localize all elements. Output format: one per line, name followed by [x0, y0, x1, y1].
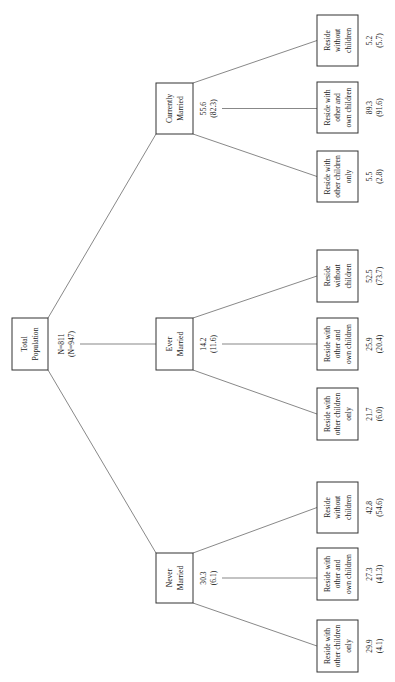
never-married-node-stats: 30.3 — [199, 571, 208, 584]
edge-currently-married-other-only — [193, 134, 317, 177]
root-node-stats: N=811 — [57, 333, 66, 354]
currently-married-node-stats: 55.6 — [199, 102, 208, 115]
ever-married-leaf-0-label: Reside with — [323, 396, 332, 432]
currently-married-leaf-0-label: other children — [333, 155, 342, 198]
edge-currently-married-without-children — [193, 41, 317, 84]
root-node-label: Population — [31, 327, 40, 360]
never-married-node-box — [156, 553, 193, 603]
ever-married-node-stats: (11.6) — [209, 335, 218, 354]
never-married-leaf-0-stats: 29.9 — [365, 639, 374, 652]
currently-married-leaf-0-label: only — [344, 170, 353, 184]
edge-never-married-other-only — [193, 603, 317, 646]
currently-married-leaf-2-stats: (5.7) — [375, 33, 384, 48]
currently-married-leaf-1-label: Reside with — [323, 89, 332, 125]
ever-married-leaf-1-label: own children — [344, 324, 353, 364]
ever-married-leaf-0-stats: (6.0) — [375, 406, 384, 421]
ever-married-leaf-2-stats: (73.7) — [375, 266, 384, 285]
ever-married-node-box — [156, 318, 193, 370]
ever-married-leaf-0-stats: 21.7 — [365, 407, 374, 420]
never-married-leaf-0-label: Reside with — [323, 628, 332, 664]
never-married-node-label: Married — [176, 566, 185, 591]
ever-married-node-label: Married — [176, 332, 185, 357]
never-married-leaf-1-stats: (41.3) — [375, 564, 384, 583]
never-married-leaf-1-stats: 27.3 — [365, 567, 374, 580]
tree-diagram: TotalPopulationN=811(N=947)CurrentlyMarr… — [0, 0, 395, 682]
never-married-node-label: Never — [165, 568, 174, 587]
ever-married-leaf-2-label: Reside — [323, 265, 332, 286]
currently-married-leaf-0-stats: 5.5 — [365, 172, 374, 182]
never-married-leaf-0-stats: (4.1) — [375, 638, 384, 653]
never-married-leaf-2-label: Reside — [323, 497, 332, 518]
never-married-leaf-2-label: without — [333, 495, 342, 519]
ever-married-leaf-0-label: only — [344, 407, 353, 421]
ever-married-leaf-1-stats: (20.4) — [375, 334, 384, 353]
ever-married-leaf-2-stats: 52.5 — [365, 269, 374, 282]
never-married-leaf-2-stats: (54.6) — [375, 498, 384, 517]
edge-ever-married-without-children — [193, 276, 317, 318]
currently-married-leaf-2-label: without — [333, 28, 342, 52]
currently-married-node-box — [156, 83, 193, 134]
currently-married-leaf-1-label: own children — [344, 87, 353, 127]
never-married-leaf-2-stats: 42.8 — [365, 501, 374, 514]
currently-married-leaf-2-stats: 5.2 — [365, 36, 374, 46]
currently-married-leaf-1-stats: (91.6) — [375, 98, 384, 117]
ever-married-node-label: Ever — [165, 336, 174, 351]
never-married-leaf-1-label: other and — [333, 560, 342, 589]
currently-married-leaf-0-label: Reside with — [323, 158, 332, 194]
currently-married-node-stats: (82.3) — [209, 99, 218, 118]
edge-ever-married-other-only — [193, 370, 317, 414]
edge-root-never-married — [48, 370, 156, 553]
never-married-leaf-1-label: Reside with — [323, 556, 332, 592]
currently-married-node-label: Currently — [165, 94, 174, 123]
ever-married-node-stats: 14.2 — [199, 337, 208, 350]
ever-married-leaf-2-label: children — [344, 263, 353, 288]
root-node-stats: (N=947) — [67, 330, 76, 357]
currently-married-node-label: Married — [176, 96, 185, 121]
never-married-leaf-0-label: only — [344, 639, 353, 653]
ever-married-leaf-1-label: other and — [333, 330, 342, 359]
never-married-node-stats: (6.1) — [209, 570, 218, 585]
never-married-leaf-2-label: children — [344, 495, 353, 520]
never-married-leaf-1-label: own children — [344, 554, 353, 594]
tree-svg: TotalPopulationN=811(N=947)CurrentlyMarr… — [0, 0, 395, 682]
currently-married-leaf-1-stats: 89.3 — [365, 101, 374, 114]
root-node-box — [12, 318, 48, 370]
root-node-label: Total — [20, 336, 29, 352]
edge-never-married-without-children — [193, 508, 317, 554]
currently-married-leaf-2-label: Reside — [323, 30, 332, 51]
ever-married-leaf-0-label: other children — [333, 393, 342, 436]
currently-married-leaf-2-label: children — [344, 28, 353, 53]
never-married-leaf-0-label: other children — [333, 625, 342, 668]
ever-married-leaf-1-label: Reside with — [323, 326, 332, 362]
currently-married-leaf-0-stats: (2.8) — [375, 169, 384, 184]
ever-married-leaf-1-stats: 25.9 — [365, 337, 374, 350]
currently-married-leaf-1-label: other and — [333, 93, 342, 122]
edge-root-currently-married — [48, 134, 156, 318]
ever-married-leaf-2-label: without — [333, 264, 342, 288]
